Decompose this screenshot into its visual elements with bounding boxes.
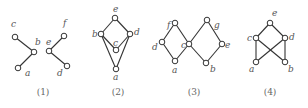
node-c [12,34,18,40]
node-b [98,31,104,37]
node-label-d: d [289,32,295,42]
node-c [186,41,192,47]
edge-c-b [189,44,206,63]
node-g [204,17,210,23]
diagram-4: ecdab(4) [247,8,295,97]
node-e [46,48,52,54]
node-a [113,66,119,72]
edge-e-d [49,51,67,66]
node-label-c: c [247,33,252,43]
node-label-g: g [214,20,220,30]
edge-b-a [18,52,34,68]
node-d [127,31,133,37]
node-d [282,35,288,41]
node-label-e: e [113,4,118,14]
node-label-d: d [152,42,158,52]
edge-c-b [15,37,34,52]
node-label-e: e [272,8,277,18]
node-e [112,15,118,21]
node-b [203,60,209,66]
node-d [159,39,165,45]
node-label-b: b [210,64,216,74]
node-a [172,58,178,64]
node-label-a: a [249,64,254,74]
node-label-c: c [11,19,16,29]
diagram-3: fdcageb(3) [152,17,230,97]
node-label-c: c [113,38,118,48]
node-c [113,47,119,53]
diagram-2: ebdca(2) [92,4,140,97]
node-label-e: e [46,37,51,47]
node-label-e: e [225,40,230,50]
edge-e-b [206,44,222,63]
node-b [282,59,288,65]
node-label-b: b [288,64,294,74]
node-c [253,35,259,41]
diagram-caption: (4) [264,87,277,97]
node-label-c: c [181,40,186,50]
diagram-caption: (3) [188,87,201,97]
node-label-a: a [25,68,30,78]
node-a [15,65,21,71]
node-label-b: b [35,37,41,47]
edge-d-a [162,42,175,61]
diagram-caption: (2) [112,87,125,97]
diagram-caption: (1) [37,87,50,97]
edge-g-c [189,20,207,44]
hasse-diagrams-canvas: cbafed(1) ebdca(2) fdcageb(3) ecdab(4) [0,0,308,108]
node-label-a: a [113,72,118,82]
diagram-1: cbafed(1) [11,18,70,97]
node-label-b: b [92,29,98,39]
node-e [267,20,273,26]
node-b [31,49,37,55]
node-label-a: a [172,65,177,75]
node-f [61,33,67,39]
node-d [64,63,70,69]
node-e [219,41,225,47]
node-f [172,20,178,26]
node-label-d: d [57,68,63,78]
node-label-d: d [134,27,140,37]
node-label-f: f [62,18,68,28]
